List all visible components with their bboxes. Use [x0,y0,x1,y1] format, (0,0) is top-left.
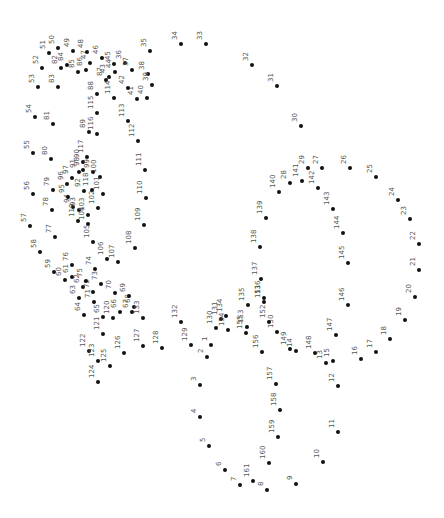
dot-number-label: 120 [104,301,111,314]
dot-number-label: 158 [271,393,278,406]
dot-number-label: 1 [202,337,209,341]
puzzle-dot [133,246,137,250]
dot-number-label: 111 [136,153,143,166]
dot-number-label: 86 [77,57,84,66]
dot-number-label: 125 [101,349,108,362]
puzzle-dot [276,435,280,439]
puzzle-dot [348,166,352,170]
dot-number-label: 74 [86,256,93,265]
puzzle-dot [238,483,242,487]
puzzle-dot [87,130,91,134]
dot-number-label: 8 [258,482,265,486]
dot-number-label: 31 [268,73,275,82]
puzzle-dot [130,68,134,72]
puzzle-dot [205,355,209,359]
dot-number-label: 101 [94,177,101,190]
dot-number-label: 29 [299,155,306,164]
puzzle-dot [374,175,378,179]
dot-number-label: 38 [139,61,146,70]
dot-number-label: 18 [381,326,388,335]
dot-number-label: 39 [143,72,150,81]
puzzle-dot [267,461,271,465]
puzzle-dot [417,242,421,246]
puzzle-dot [53,235,57,239]
puzzle-dot [275,84,279,88]
puzzle-dot [100,56,104,60]
puzzle-dot [66,195,70,199]
puzzle-dot [91,240,95,244]
puzzle-dot [226,328,230,332]
dot-number-label: 15 [324,348,331,357]
puzzle-dot [275,330,279,334]
puzzle-dot [77,296,81,300]
puzzle-dot [374,350,378,354]
puzzle-dot [223,468,227,472]
puzzle-dot [324,361,328,365]
dot-number-label: 147 [327,318,334,331]
puzzle-dot [209,343,213,347]
puzzle-dot [31,151,35,155]
puzzle-dot [150,83,154,87]
puzzle-dot [99,282,103,286]
puzzle-dot [259,277,263,281]
puzzle-dot [331,359,335,363]
dot-number-label: 139 [257,201,264,214]
puzzle-dot [93,267,97,271]
dot-number-label: 65 [94,304,101,313]
puzzle-dot [118,310,122,314]
dot-number-label: 27 [313,155,320,164]
puzzle-dot [112,62,116,66]
puzzle-dot [33,115,37,119]
dot-number-label: 109 [135,208,142,221]
dot-number-label: 154 [219,313,226,326]
dot-number-label: 148 [306,336,313,349]
puzzle-dot [101,315,105,319]
puzzle-dot [142,223,146,227]
puzzle-dot [127,294,131,298]
dot-number-label: 2 [198,349,205,353]
dot-number-label: 138 [251,230,258,243]
puzzle-dot [82,313,86,317]
dot-number-label: 115 [88,96,95,109]
dot-number-label: 110 [137,181,144,194]
puzzle-dot [141,344,145,348]
puzzle-dot [122,351,126,355]
puzzle-dot [336,384,340,388]
puzzle-dot [274,382,278,386]
puzzle-dot [49,157,53,161]
dot-number-label: 152 [260,305,267,318]
puzzle-dot [92,300,96,304]
dot-number-label: 64 [75,302,82,311]
puzzle-dot [198,383,202,387]
puzzle-dot [251,479,255,483]
dot-number-label: 12 [329,373,336,382]
dot-number-label: 161 [244,464,251,477]
dot-number-label: 73 [92,271,99,280]
dot-number-label: 106 [98,242,105,255]
puzzle-dot [116,260,120,264]
puzzle-dot [71,49,75,53]
dot-number-label: 20 [406,284,413,293]
puzzle-dot [50,208,54,212]
dot-number-label: 155 [237,316,244,329]
dot-number-label: 61 [63,264,70,273]
dot-number-label: 119 [69,204,76,217]
puzzle-dot [40,66,44,70]
dot-number-label: 3 [191,377,198,381]
puzzle-dot [264,216,268,220]
dot-number-label: 40 [138,85,145,94]
puzzle-dot [262,300,266,304]
dot-number-label: 108 [126,231,133,244]
puzzle-dot [96,206,100,210]
dot-number-label: 121 [94,317,101,330]
puzzle-dot [321,460,325,464]
dot-number-label: 57 [21,213,28,222]
dot-number-label: 33 [197,31,204,40]
dot-number-label: 88 [88,81,95,90]
dot-number-label: 143 [324,192,331,205]
dot-number-label: 160 [260,446,267,459]
puzzle-dot [336,430,340,434]
puzzle-dot [179,42,183,46]
puzzle-dot [108,364,112,368]
puzzle-dot [82,189,86,193]
